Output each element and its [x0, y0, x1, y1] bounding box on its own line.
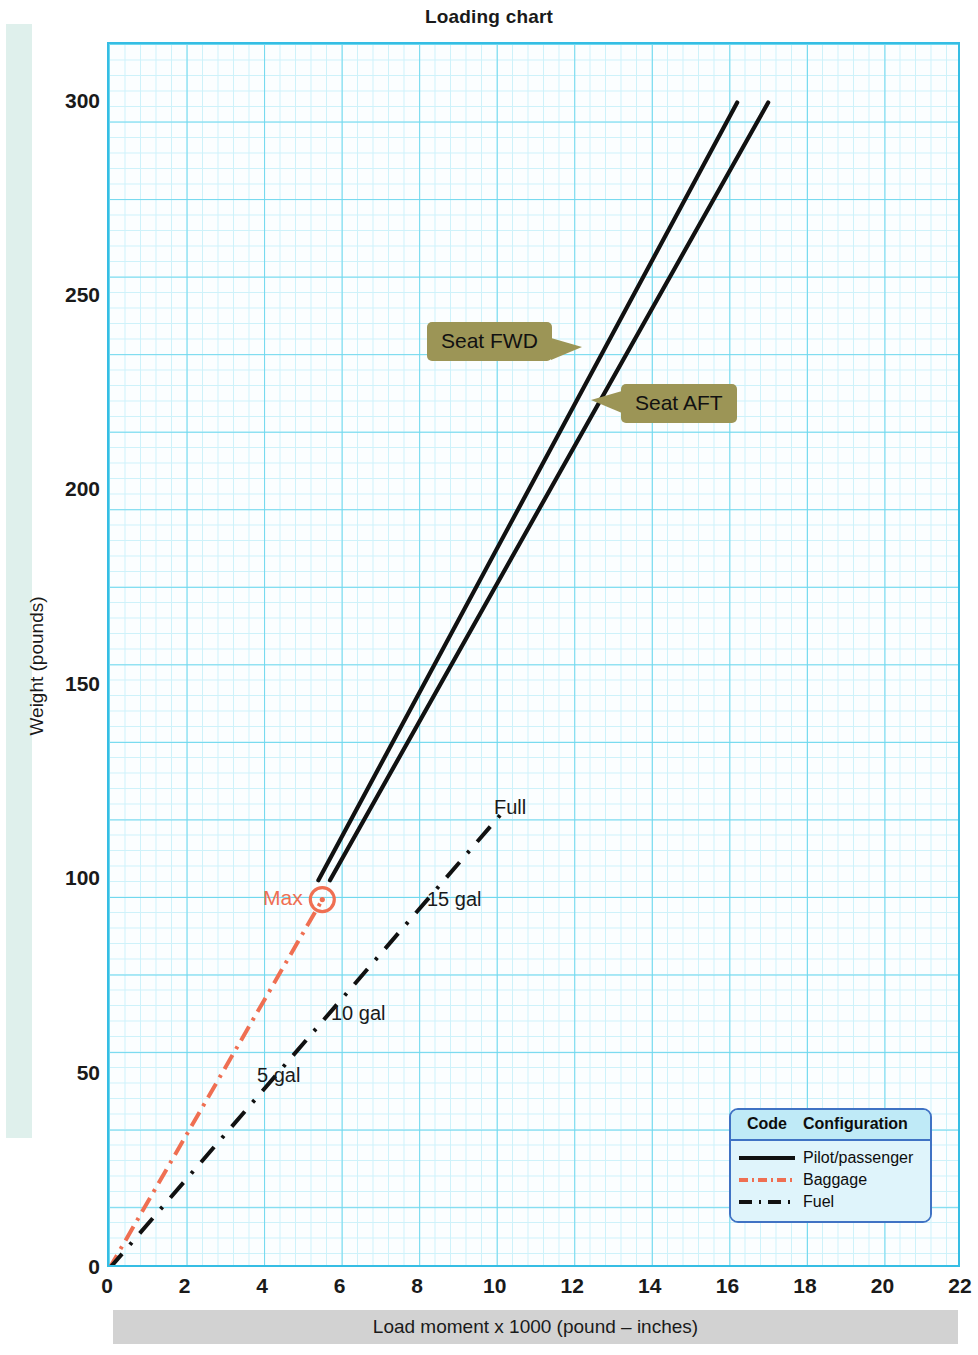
plot-lines: [109, 44, 960, 1267]
series-line-fuel: [109, 810, 505, 1267]
callout-tail-icon: [591, 391, 622, 413]
x-tick: 8: [387, 1274, 447, 1298]
y-axis-label: Weight (pounds): [26, 566, 48, 766]
x-tick: 14: [620, 1274, 680, 1298]
callout-seat-aft-label: Seat AFT: [635, 391, 723, 414]
y-tick: 250: [36, 283, 100, 307]
legend-label: Pilot/passenger: [803, 1149, 930, 1167]
annotation-15-gal: 15 gal: [427, 888, 482, 911]
series-line-seat-aft: [330, 103, 768, 881]
annotation-10-gal: 10 gal: [331, 1002, 386, 1025]
legend-header-code: Code: [731, 1115, 803, 1133]
legend-header-config: Configuration: [803, 1115, 930, 1133]
callout-seat-aft[interactable]: Seat AFT: [621, 384, 737, 423]
x-tick: 0: [77, 1274, 137, 1298]
max-marker-dot: [320, 897, 325, 902]
x-tick: 20: [853, 1274, 913, 1298]
legend: Code Configuration Pilot/passenger Bagga…: [729, 1108, 932, 1223]
y-tick: 100: [36, 866, 100, 890]
callout-seat-fwd[interactable]: Seat FWD: [427, 322, 552, 361]
x-tick: 12: [542, 1274, 602, 1298]
legend-label: Fuel: [803, 1193, 930, 1211]
legend-row: Baggage: [731, 1169, 930, 1191]
legend-body: Pilot/passenger Baggage Fuel: [731, 1141, 930, 1221]
legend-row: Fuel: [731, 1191, 930, 1213]
callout-tail-icon: [551, 338, 582, 360]
x-tick: 18: [775, 1274, 835, 1298]
y-tick: 50: [36, 1061, 100, 1085]
plot-area: Max Full 15 gal 10 gal 5 gal Seat FWD Se…: [107, 42, 960, 1267]
x-tick: 10: [465, 1274, 525, 1298]
annotation-full: Full: [494, 796, 526, 819]
annotation-5-gal: 5 gal: [257, 1064, 300, 1087]
legend-swatch-dashed-icon: [731, 1197, 803, 1207]
x-tick: 16: [697, 1274, 757, 1298]
legend-swatch-dashdot-icon: [731, 1175, 803, 1185]
callout-seat-fwd-label: Seat FWD: [441, 329, 538, 352]
x-tick: 2: [155, 1274, 215, 1298]
legend-header: Code Configuration: [731, 1110, 930, 1141]
legend-row: Pilot/passenger: [731, 1147, 930, 1169]
y-tick: 300: [36, 89, 100, 113]
x-axis-label: Load moment x 1000 (pound – inches): [113, 1310, 958, 1344]
x-tick: 4: [232, 1274, 292, 1298]
annotation-max: Max: [263, 886, 303, 910]
x-tick: 6: [310, 1274, 370, 1298]
x-axis-ticks: 0 2 4 6 8 10 12 14 16 18 20 22: [107, 1274, 960, 1304]
legend-swatch-solid-icon: [731, 1153, 803, 1163]
x-tick: 22: [930, 1274, 978, 1298]
y-tick: 200: [36, 477, 100, 501]
series-line-seat-fwd: [318, 103, 737, 881]
legend-label: Baggage: [803, 1171, 930, 1189]
page-title: Loading chart: [0, 6, 978, 28]
